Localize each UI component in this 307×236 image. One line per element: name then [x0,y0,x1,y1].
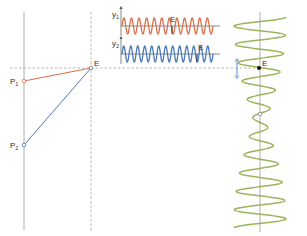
e-label: E [94,59,99,68]
y2-e-marker: E [198,43,203,52]
y1-axis-label: y1 [112,10,119,20]
y2-wave-chart: y2 E [112,36,220,64]
sum-e-label: E [262,59,267,68]
beats-diagram: P1 P2 E y1 E y2 E E [0,0,307,236]
point-e [89,66,93,70]
y2-axis-label: y2 [112,39,119,49]
sum-e-point [257,66,261,70]
point-p1 [22,79,26,83]
point-p2 [22,143,26,147]
sum-node-point [258,112,262,116]
p2-label: P2 [10,141,18,151]
y1-wave-chart: y1 E [112,6,220,36]
y1-e-marker: E [170,15,175,24]
resultant-beat-wave [234,17,286,228]
p1-label: P1 [10,77,18,87]
